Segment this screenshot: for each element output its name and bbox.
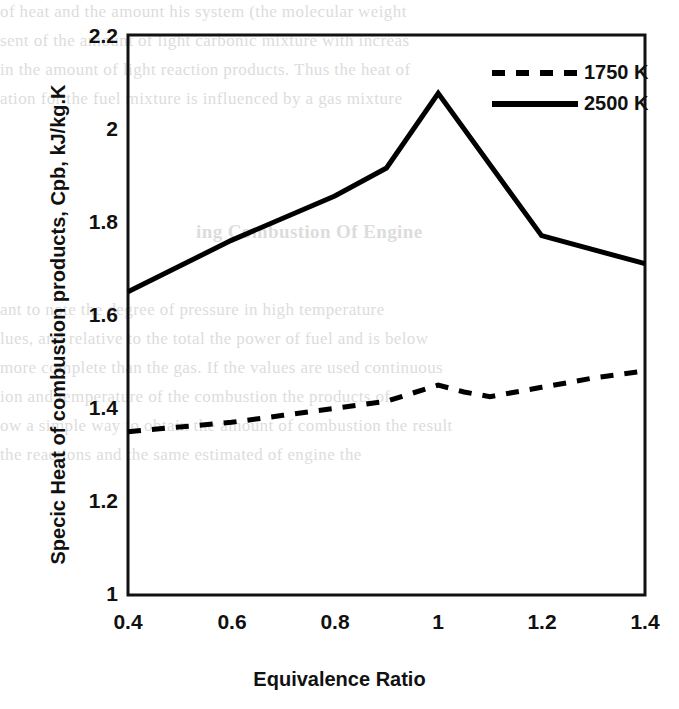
legend-label-2500k: 2500 K bbox=[584, 92, 649, 115]
plot-frame bbox=[128, 35, 645, 595]
legend-label-1750k: 1750 K bbox=[584, 61, 649, 84]
x-tick-label: 0.4 bbox=[98, 610, 158, 634]
series-line-2500k bbox=[128, 93, 645, 291]
x-tick-label: 1.2 bbox=[512, 610, 572, 634]
x-tick-label: 0.8 bbox=[305, 610, 365, 634]
x-tick-label: 1 bbox=[408, 610, 468, 634]
x-tick-label: 1.4 bbox=[615, 610, 675, 634]
x-axis-title: Equivalence Ratio bbox=[0, 668, 679, 691]
y-axis-title: Specic Heat of combustion products, Cpb,… bbox=[47, 45, 70, 605]
chart-figure: 2.2 2 1.8 1.6 1.4 1.2 1 0.4 0.6 0.8 1 1.… bbox=[0, 0, 679, 709]
series-line-1750k bbox=[128, 371, 645, 432]
x-tick-label: 0.6 bbox=[202, 610, 262, 634]
